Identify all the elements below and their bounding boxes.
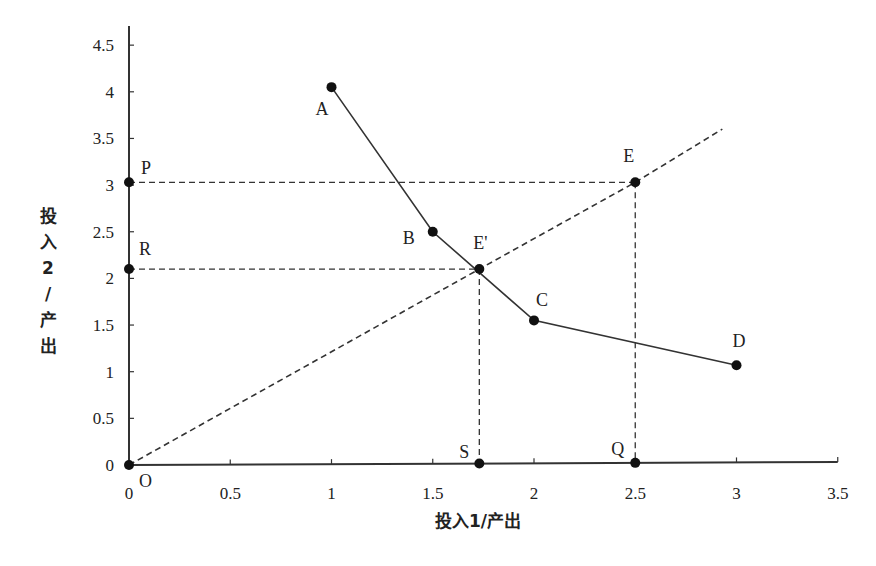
- point-label: C: [536, 290, 548, 310]
- y-tick-label: 1.5: [93, 316, 114, 335]
- x-tick-label: 2: [530, 484, 539, 503]
- point-P: [124, 177, 134, 187]
- y-tick-label: 2.5: [93, 223, 114, 242]
- point-label: A: [316, 99, 329, 119]
- x-tick-label: 1: [327, 484, 336, 503]
- point-label: D: [733, 331, 746, 351]
- point-label: R: [139, 239, 151, 259]
- point-label: E': [473, 233, 487, 253]
- point-label: O: [139, 471, 152, 491]
- x-tick-label: 1.5: [422, 484, 443, 503]
- point-A: [327, 82, 337, 92]
- point-E': [474, 264, 484, 274]
- point-label: E: [623, 146, 634, 166]
- y-axis-title: 投入2/产出: [40, 206, 57, 356]
- y-axis-title-char: 出: [40, 336, 57, 356]
- y-axis-title-char: 产: [40, 310, 57, 330]
- y-tick-label: 3: [106, 176, 115, 195]
- point-label: S: [459, 442, 469, 462]
- x-tick-label: 0: [125, 484, 134, 503]
- point-R: [124, 264, 134, 274]
- y-axis-title-char: 2: [42, 258, 54, 278]
- y-tick-label: 0.5: [93, 409, 114, 428]
- point-label: B: [403, 228, 415, 248]
- x-tick-label: 0.5: [220, 484, 241, 503]
- point-E: [630, 177, 640, 187]
- y-tick-label: 0: [106, 456, 115, 475]
- y-tick-label: 4.5: [93, 36, 114, 55]
- series: [129, 87, 737, 465]
- y-tick-label: 2: [106, 269, 115, 288]
- y-tick-label: 1: [106, 363, 115, 382]
- point-label: P: [141, 158, 151, 178]
- x-tick-label: 3: [732, 484, 741, 503]
- point-label: Q: [611, 439, 624, 459]
- point-D: [732, 360, 742, 370]
- x-axis-title: 投入1/产出: [435, 511, 521, 531]
- y-tick-label: 3.5: [93, 129, 114, 148]
- y-axis-title-char: 投: [40, 206, 57, 226]
- y-axis-title-char: 入: [40, 232, 57, 252]
- data-points: ABCDOE'EPRSQ: [124, 82, 746, 491]
- point-C: [529, 315, 539, 325]
- y-tick-label: 4: [106, 83, 115, 102]
- point-S: [474, 459, 484, 469]
- point-O: [124, 460, 134, 470]
- chart: 00.511.522.533.500.511.522.533.544.5 ABC…: [0, 0, 876, 566]
- x-tick-label: 3.5: [827, 484, 848, 503]
- y-axis-title-char: /: [45, 284, 52, 304]
- point-B: [428, 227, 438, 237]
- point-Q: [630, 458, 640, 468]
- x-tick-label: 2.5: [625, 484, 646, 503]
